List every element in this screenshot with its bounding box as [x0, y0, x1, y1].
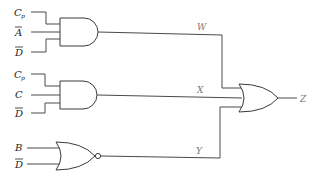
logic-circuit-diagram: C p A D C p C D B D W X Y	[0, 0, 319, 178]
wire-w	[98, 32, 242, 88]
and-gate-2	[60, 81, 97, 109]
wire-cp-2	[31, 74, 60, 86]
wire-y	[101, 107, 242, 158]
or-gate	[239, 84, 278, 112]
circuit-svg: C p A D C p C D B D W X Y	[0, 0, 319, 178]
nor-gate-group: B D	[14, 142, 101, 170]
wire-cp-1	[31, 12, 60, 24]
wire-d-not-2	[31, 103, 60, 113]
and-gate-2-group: C p C D	[14, 69, 97, 119]
and-gate-1	[60, 18, 98, 46]
nor-gate	[56, 142, 95, 170]
wire-x	[97, 95, 242, 98]
signal-label-x: X	[196, 85, 204, 95]
input-label-d-not-2: D	[14, 108, 23, 119]
input-label-d-not-1: D	[14, 47, 23, 58]
input-label-cp-1-sub: p	[21, 12, 25, 20]
nor-inversion-bubble	[95, 153, 100, 158]
or-gate-group: Z	[239, 84, 307, 112]
output-label-z: Z	[299, 94, 307, 104]
input-label-a-not: A	[14, 27, 22, 38]
signal-label-w: W	[197, 22, 207, 32]
input-label-d-not-3: D	[14, 159, 23, 170]
input-label-b: B	[14, 142, 22, 153]
wire-d-not-1	[31, 39, 60, 52]
input-label-c: C	[15, 89, 23, 100]
signal-label-y: Y	[196, 146, 203, 156]
input-label-cp-2-sub: p	[21, 74, 25, 82]
and-gate-1-group: C p A D	[14, 7, 98, 58]
